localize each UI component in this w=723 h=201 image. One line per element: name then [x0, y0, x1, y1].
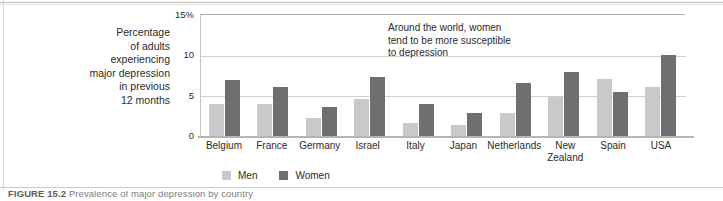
x-label-israel: Israel: [344, 140, 392, 163]
bar-women-spain: [613, 92, 628, 136]
x-label-usa-line1: USA: [637, 140, 685, 152]
caption-label: FIGURE 15.2: [8, 191, 66, 199]
x-label-belgium-line1: Belgium: [200, 140, 248, 152]
caption-text-line: FIGURE 15.2 Prevalence of major depressi…: [8, 191, 253, 199]
bar-women-japan: [467, 113, 482, 136]
x-label-belgium: Belgium: [200, 140, 248, 163]
chart-legend: Men Women: [222, 170, 330, 181]
x-label-france-line1: France: [248, 140, 296, 152]
x-label-italy-line1: Italy: [392, 140, 440, 152]
bar-women-france: [273, 87, 288, 136]
y-axis-title-line-1: Percentage: [48, 26, 170, 40]
x-label-netherlands: Netherlands: [487, 140, 541, 163]
x-label-italy: Italy: [392, 140, 440, 163]
bar-men-france: [257, 104, 272, 136]
x-label-usa: USA: [637, 140, 685, 163]
bar-women-israel: [370, 77, 385, 136]
y-tick-label-5: 5: [152, 90, 194, 101]
bar-group-israel: [346, 14, 395, 136]
x-label-japan: Japan: [439, 140, 487, 163]
annotation-line-1: Around the world, women: [388, 22, 511, 35]
legend-label-women: Women: [295, 170, 329, 181]
annotation-line-3: to depression: [388, 47, 511, 60]
bar-men-spain: [597, 79, 612, 136]
legend-swatch-women-icon: [279, 171, 288, 180]
x-label-japan-line1: Japan: [439, 140, 487, 152]
x-axis-baseline: [198, 136, 694, 138]
legend-item-men: Men: [222, 170, 257, 181]
x-label-germany-line1: Germany: [296, 140, 344, 152]
bar-group-germany: [297, 14, 346, 136]
top-rule: [0, 2, 723, 3]
caption-divider: [0, 187, 723, 188]
y-tick-label-10: 10: [152, 49, 194, 60]
figure-container: Percentage of adults experiencing major …: [0, 0, 723, 201]
y-tick-label-0: 0: [152, 130, 194, 141]
bar-group-france: [249, 14, 298, 136]
x-label-spain: Spain: [589, 140, 637, 163]
y-tick-label-15: 15%: [152, 9, 194, 20]
x-label-new-zealand-line1: New: [541, 140, 589, 152]
caption-body: Prevalence of major depression by countr…: [69, 191, 253, 199]
figure-caption: FIGURE 15.2 Prevalence of major depressi…: [8, 191, 708, 201]
bar-group-usa: [637, 14, 686, 136]
bar-men-japan: [451, 125, 466, 136]
bar-women-germany: [322, 107, 337, 136]
bar-men-germany: [306, 118, 321, 136]
bar-group-new-zealand: [540, 14, 589, 136]
bar-men-new-zealand: [548, 97, 563, 136]
left-edge-rule: [3, 0, 4, 190]
x-axis-labels: Belgium France Germany Israel Italy Japa…: [200, 140, 685, 163]
bar-women-netherlands: [516, 83, 531, 136]
x-label-israel-line1: Israel: [344, 140, 392, 152]
x-label-france: France: [248, 140, 296, 163]
top-rule-secondary: [0, 4, 723, 5]
x-label-new-zealand-line2: Zealand: [541, 152, 589, 164]
legend-swatch-men-icon: [222, 171, 231, 180]
x-label-new-zealand: New Zealand: [541, 140, 589, 163]
annotation-line-2: tend to be more susceptible: [388, 35, 511, 48]
bar-women-new-zealand: [564, 72, 579, 136]
bar-group-belgium: [200, 14, 249, 136]
bar-men-israel: [354, 99, 369, 136]
chart-annotation: Around the world, women tend to be more …: [388, 22, 511, 60]
y-axis-title-line-4: major depression: [48, 67, 170, 81]
bar-men-belgium: [209, 104, 224, 137]
bar-group-spain: [588, 14, 637, 136]
x-label-germany: Germany: [296, 140, 344, 163]
bar-women-italy: [419, 104, 434, 137]
bar-women-usa: [661, 55, 676, 136]
x-label-spain-line1: Spain: [589, 140, 637, 152]
bar-men-italy: [403, 123, 418, 136]
bar-women-belgium: [225, 80, 240, 136]
legend-label-men: Men: [238, 170, 257, 181]
bar-men-usa: [645, 87, 660, 136]
bar-men-netherlands: [500, 113, 515, 136]
x-label-netherlands-line1: Netherlands: [487, 140, 541, 152]
legend-item-women: Women: [279, 170, 329, 181]
